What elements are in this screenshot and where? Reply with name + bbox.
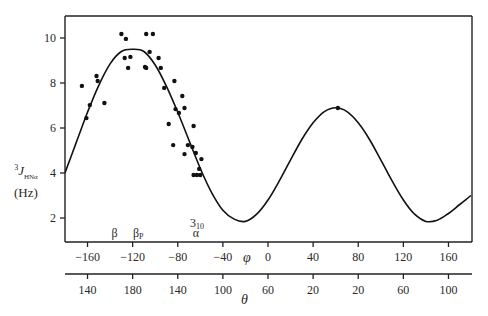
region-label: β [112, 226, 118, 240]
theta-tick-label: 20 [307, 283, 319, 297]
phi-tick-label: 160 [439, 250, 457, 264]
data-point [173, 107, 177, 111]
y-label-unit: (Hz) [14, 185, 38, 201]
data-point [126, 66, 130, 70]
theta-tick-label: 100 [439, 283, 457, 297]
data-point [147, 50, 151, 54]
data-point [197, 167, 201, 171]
data-point [182, 152, 186, 156]
data-point [199, 157, 203, 161]
phi-tick-label: −120 [120, 250, 145, 264]
data-point [177, 111, 181, 115]
data-point [143, 65, 147, 69]
secondary-structure-labels: ββP310α [112, 216, 204, 241]
theta-tick-label: 20 [352, 283, 364, 297]
y-axis-ticks: 246810 [44, 31, 65, 225]
data-point [336, 106, 340, 110]
theta-tick-label: 60 [262, 283, 274, 297]
y-axis-label: 3JHNα (Hz) [14, 160, 38, 201]
data-point [96, 79, 100, 83]
phi-tick-label: 40 [307, 250, 319, 264]
data-point [180, 94, 184, 98]
theta-axis-ticks: 14018014010060202060100 [79, 274, 458, 297]
phi-tick-label: −160 [75, 250, 100, 264]
data-point [144, 32, 148, 36]
data-point [182, 106, 186, 110]
data-point [151, 32, 155, 36]
data-point [124, 37, 128, 41]
data-point [119, 32, 123, 36]
phi-tick-label: 120 [394, 250, 412, 264]
y-tick-label: 10 [44, 31, 56, 45]
data-point [186, 143, 190, 147]
data-point [167, 122, 171, 126]
karplus-curve [65, 49, 471, 222]
theta-tick-label: 140 [79, 283, 97, 297]
region-label: βP [133, 226, 144, 241]
data-point [123, 56, 127, 60]
data-point [198, 173, 202, 177]
theta-tick-label: 100 [214, 283, 232, 297]
y-tick-label: 2 [50, 211, 56, 225]
data-point [84, 116, 88, 120]
data-point [128, 55, 132, 59]
phi-tick-label: −80 [168, 250, 187, 264]
data-point [162, 86, 166, 90]
plot-frame [65, 16, 472, 274]
data-point [172, 79, 176, 83]
data-point [191, 124, 195, 128]
phi-tick-label: 0 [265, 250, 271, 264]
theta-tick-label: 60 [397, 283, 409, 297]
data-point [171, 143, 175, 147]
data-point [88, 103, 92, 107]
data-point [190, 145, 194, 149]
y-label-subscript: HNα [24, 173, 38, 181]
phi-axis-ticks: −160−120−80−4004080120160 [75, 242, 457, 264]
region-label: α [193, 226, 200, 240]
theta-tick-label: 140 [169, 283, 187, 297]
phi-tick-label: −40 [213, 250, 232, 264]
data-point [159, 66, 163, 70]
y-tick-label: 8 [50, 76, 56, 90]
phi-tick-label: 80 [352, 250, 364, 264]
theta-tick-label: 180 [124, 283, 142, 297]
phi-axis-label: φ [243, 250, 251, 265]
y-tick-label: 4 [50, 166, 56, 180]
data-point [102, 101, 106, 105]
data-point [156, 56, 160, 60]
data-point [194, 151, 198, 155]
data-point [80, 84, 84, 88]
y-tick-label: 6 [50, 121, 56, 135]
karplus-chart: 246810 −160−120−80−4004080120160 1401801… [0, 0, 488, 316]
theta-axis-label: θ [241, 292, 248, 307]
data-point [94, 74, 98, 78]
